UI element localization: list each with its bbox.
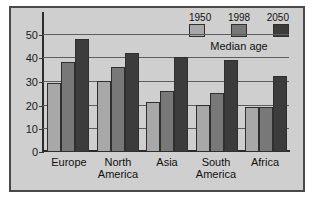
bar-group <box>196 22 238 152</box>
category-label: NorthAmerica <box>96 156 140 180</box>
bar <box>75 39 89 152</box>
y-tick-mark-0 <box>39 152 44 153</box>
bar-group <box>146 22 188 152</box>
bar <box>160 91 174 152</box>
bar <box>224 60 238 152</box>
bar <box>210 93 224 152</box>
bar-group <box>97 22 139 152</box>
bar <box>196 105 210 152</box>
bar <box>125 53 139 152</box>
y-tick-label-20: 20 <box>26 100 38 112</box>
y-tick-label-30: 30 <box>26 76 38 88</box>
plot-area: 01020304050 <box>43 22 289 152</box>
bar <box>245 107 259 152</box>
category-label-line: Africa <box>243 156 287 168</box>
chart-figure: 1950 1998 2050 Median age 01020304050 Eu… <box>9 6 305 192</box>
bar <box>47 83 61 152</box>
category-label-line: America <box>194 168 238 180</box>
bar <box>111 67 125 152</box>
category-label: Europe <box>47 156 91 180</box>
bar <box>174 57 188 152</box>
category-label: SouthAmerica <box>194 156 238 180</box>
bar-group <box>47 22 89 152</box>
category-label-line: South <box>194 156 238 168</box>
bar-groups <box>43 22 289 152</box>
bar <box>273 76 287 152</box>
y-tick-label-10: 10 <box>26 123 38 135</box>
bar <box>259 107 273 152</box>
y-tick-label-50: 50 <box>26 29 38 41</box>
y-tick-label-40: 40 <box>26 52 38 64</box>
category-label-line: America <box>96 168 140 180</box>
bar-group <box>245 22 287 152</box>
bar <box>146 102 160 152</box>
x-axis-category-labels: EuropeNorthAmericaAsiaSouthAmericaAfrica <box>43 156 289 180</box>
bar <box>61 62 75 152</box>
category-label-line: North <box>96 156 140 168</box>
bar <box>97 81 111 152</box>
category-label: Asia <box>145 156 189 180</box>
y-tick-label-0: 0 <box>32 146 38 158</box>
category-label: Africa <box>243 156 287 180</box>
category-label-line: Asia <box>145 156 189 168</box>
category-label-line: Europe <box>47 156 91 168</box>
